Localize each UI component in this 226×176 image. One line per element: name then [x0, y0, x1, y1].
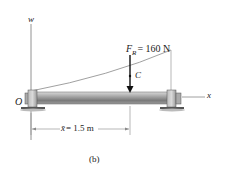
right-collar — [176, 93, 181, 104]
dimension-label: x̄= 1.5 m — [61, 124, 94, 133]
w-axis-label: w — [28, 15, 34, 24]
right-support-block — [167, 90, 176, 107]
force-label: FR= 160 N — [126, 44, 170, 57]
origin-label: O — [15, 97, 22, 107]
left-support-block — [28, 90, 37, 107]
beam — [34, 92, 170, 104]
centroid-point — [129, 75, 131, 77]
figure-caption: (b) — [89, 155, 100, 164]
x-axis-label: x — [207, 91, 211, 100]
beam-diagram — [0, 0, 226, 176]
centroid-label: C — [135, 71, 141, 80]
